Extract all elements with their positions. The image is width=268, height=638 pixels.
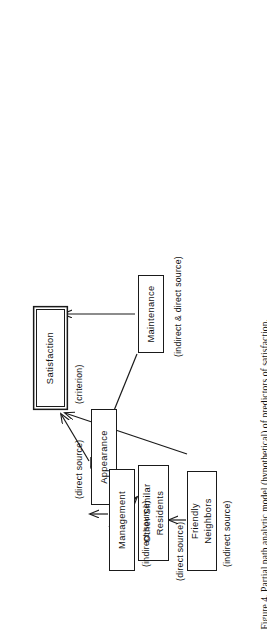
node-friendly-neighbors-label-line1: Friendly bbox=[189, 503, 202, 539]
path-diagram: Satisfaction Appearance Other Similar Re… bbox=[19, 19, 249, 619]
node-appearance-label: Appearance bbox=[97, 430, 110, 484]
node-management-label-line1: Management bbox=[115, 491, 128, 549]
annotation-management-indirect-source: (indirect source) bbox=[141, 500, 151, 567]
node-other-similar-residents-label-line2: Residents bbox=[153, 491, 166, 536]
node-maintenance-label: Maintenance bbox=[144, 285, 157, 342]
node-satisfaction[interactable]: Satisfaction bbox=[36, 309, 65, 407]
node-management[interactable]: Management bbox=[109, 469, 135, 571]
node-maintenance[interactable]: Maintenance bbox=[138, 275, 164, 353]
annotation-appearance-direct-source: (direct source) bbox=[74, 440, 84, 499]
node-satisfaction-label: Satisfaction bbox=[44, 332, 57, 384]
node-friendly-neighbors-label-line2: Neighbors bbox=[202, 498, 215, 544]
node-friendly-neighbors[interactable]: FriendlyNeighbors bbox=[187, 471, 217, 571]
annotation-other-similar-direct-source: (direct source) bbox=[175, 522, 185, 581]
annotation-maintenance-indirect-direct-source: (indirect & direct source) bbox=[173, 256, 183, 357]
figure-root: Satisfaction Appearance Other Similar Re… bbox=[0, 0, 267, 638]
annotation-friendly-indirect-source: (indirect source) bbox=[222, 500, 232, 567]
annotation-criterion: (criterion) bbox=[74, 364, 84, 404]
figure-caption: Figure 4. Partial path analytic model (h… bbox=[260, 319, 268, 630]
